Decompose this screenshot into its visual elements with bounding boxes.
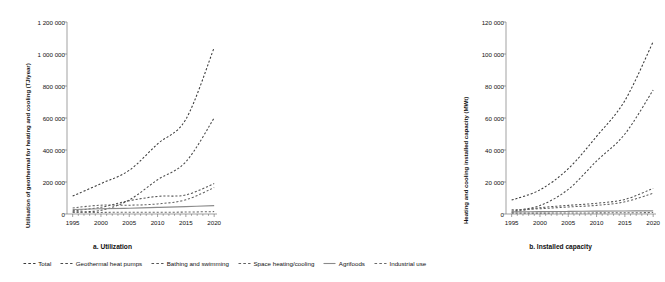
legend-item-bathing-and-swimming[interactable]: Bathing and swimming bbox=[151, 260, 229, 267]
legend-line-swatch-icon bbox=[60, 261, 73, 266]
x-tick-label: 2015 bbox=[618, 219, 632, 226]
series-line-agrifoods bbox=[73, 206, 215, 210]
y-tick-label: 80 000 bbox=[485, 83, 504, 90]
series-line-total bbox=[73, 48, 215, 196]
chart-panel-installed-capacity: Heating and cooling installed capacity (… bbox=[224, 0, 449, 256]
x-tick-label: 2005 bbox=[561, 219, 575, 226]
legend-item-total[interactable]: Total bbox=[23, 260, 52, 267]
x-axis-ticks-b: 199520002005201020152020 bbox=[224, 214, 449, 226]
series-line-geothermal-heat-pumps bbox=[512, 90, 654, 211]
legend-item-label: Total bbox=[38, 260, 51, 267]
x-tick-label: 2010 bbox=[590, 219, 604, 226]
legend-line-swatch-icon bbox=[374, 261, 387, 266]
legend-item-label: Space heating/cooling bbox=[253, 260, 314, 267]
legend-item-label: Bathing and swimming bbox=[167, 260, 229, 267]
legend-line-swatch-icon bbox=[323, 261, 336, 266]
y-tick-label: 120 000 bbox=[482, 19, 504, 26]
plot-area-utilization bbox=[67, 22, 217, 214]
x-tick-label: 2015 bbox=[179, 219, 193, 226]
y-tick-label: 600 000 bbox=[43, 115, 65, 122]
x-tick-label: 1995 bbox=[66, 219, 80, 226]
y-tick-label: 60 000 bbox=[485, 115, 504, 122]
legend-line-swatch-icon bbox=[238, 261, 251, 266]
legend-line-swatch-icon bbox=[23, 261, 36, 266]
panel-caption-b: b. Installed capacity bbox=[448, 243, 665, 250]
chart-legend: TotalGeothermal heat pumpsBathing and sw… bbox=[0, 260, 449, 267]
x-tick-label: 2020 bbox=[207, 219, 221, 226]
y-tick-label: 400 000 bbox=[43, 147, 65, 154]
y-tick-label: 100 000 bbox=[482, 51, 504, 58]
legend-item-industrial-use[interactable]: Industrial use bbox=[374, 260, 426, 267]
legend-item-label: Agrifoods bbox=[339, 260, 365, 267]
y-axis-ticks-b: 020 00040 00060 00080 000100 000120 000 bbox=[464, 0, 504, 256]
x-tick-label: 1995 bbox=[505, 219, 519, 226]
x-tick-label: 2020 bbox=[646, 219, 660, 226]
panel-caption-a: a. Utilization bbox=[0, 243, 225, 250]
legend-item-label: Geothermal heat pumps bbox=[76, 260, 142, 267]
x-tick-label: 2010 bbox=[151, 219, 165, 226]
legend-item-agrifoods[interactable]: Agrifoods bbox=[323, 260, 365, 267]
series-line-agrifoods bbox=[512, 211, 654, 212]
x-tick-label: 2000 bbox=[94, 219, 108, 226]
y-tick-label: 1 200 000 bbox=[37, 19, 65, 26]
series-line-space-heating-cooling bbox=[73, 188, 215, 208]
plot-area-installed-capacity bbox=[506, 22, 656, 214]
legend-item-label: Industrial use bbox=[389, 260, 426, 267]
legend-item-geothermal-heat-pumps[interactable]: Geothermal heat pumps bbox=[60, 260, 142, 267]
y-tick-label: 800 000 bbox=[43, 83, 65, 90]
legend-item-space-heating-cooling[interactable]: Space heating/cooling bbox=[238, 260, 314, 267]
series-line-industrial-use bbox=[512, 213, 654, 214]
x-tick-label: 2005 bbox=[122, 219, 136, 226]
y-tick-label: 1 000 000 bbox=[37, 51, 65, 58]
chart-panel-utilization: Utilisation of geothermal for heating an… bbox=[0, 0, 225, 256]
y-tick-label: 200 000 bbox=[43, 179, 65, 186]
x-axis-ticks-a: 199520002005201020152020 bbox=[0, 214, 225, 226]
legend-line-swatch-icon bbox=[151, 261, 164, 266]
y-tick-label: 20 000 bbox=[485, 179, 504, 186]
y-tick-label: 40 000 bbox=[485, 147, 504, 154]
x-tick-label: 2000 bbox=[533, 219, 547, 226]
